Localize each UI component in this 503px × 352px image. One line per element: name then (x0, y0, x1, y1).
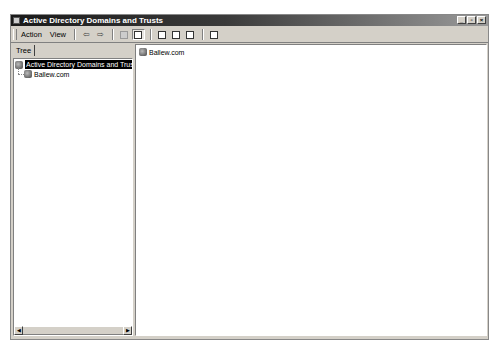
details-pane: Ballew.com (135, 44, 487, 336)
menu-action[interactable]: Action (17, 30, 46, 39)
horizontal-scrollbar[interactable]: ◀ ▶ (14, 326, 132, 335)
folder-up-icon (120, 31, 128, 39)
tree-root-label: Active Directory Domains and Trusts (25, 60, 133, 69)
up-one-level-button[interactable] (118, 29, 131, 40)
refresh-icon (172, 31, 180, 39)
export-list-button[interactable] (184, 29, 197, 40)
toolbar-separator (202, 29, 204, 40)
scroll-track[interactable] (23, 326, 123, 335)
show-hide-console-tree-button[interactable] (132, 29, 145, 40)
scroll-right-button[interactable]: ▶ (123, 326, 132, 335)
window-controls: _ ▫ × (457, 16, 486, 24)
tree-item-label: Ballew.com (34, 71, 69, 78)
domains-trusts-icon (15, 61, 23, 69)
forward-arrow-icon: ⇨ (97, 30, 104, 39)
app-icon[interactable] (13, 17, 20, 24)
console-tree-pane: Active Directory Domains and Trusts Ball… (13, 58, 133, 336)
close-button[interactable]: × (477, 16, 486, 24)
toolbar-separator (112, 29, 114, 40)
maximize-button[interactable]: ▫ (467, 16, 476, 24)
back-button[interactable]: ⇦ (80, 29, 93, 40)
properties-icon (158, 31, 166, 39)
domain-icon (24, 70, 32, 78)
export-list-icon (186, 31, 194, 39)
refresh-button[interactable] (170, 29, 183, 40)
toolbar-separator (150, 29, 152, 40)
menu-toolbar: Action View ⇦ ⇨ (11, 27, 488, 43)
console-tree-icon (134, 31, 142, 39)
help-button[interactable] (208, 29, 221, 40)
title-bar[interactable]: Active Directory Domains and Trusts _ ▫ … (11, 15, 488, 26)
toolbar-separator (74, 29, 76, 40)
forward-button[interactable]: ⇨ (94, 29, 107, 40)
tab-tree[interactable]: Tree (13, 45, 35, 56)
domain-icon (139, 48, 147, 56)
help-icon (210, 31, 218, 39)
back-arrow-icon: ⇦ (83, 30, 90, 39)
list-item-ballew-com[interactable]: Ballew.com (139, 47, 184, 57)
mmc-window: Active Directory Domains and Trusts _ ▫ … (10, 14, 489, 340)
window-title: Active Directory Domains and Trusts (23, 15, 163, 26)
minimize-button[interactable]: _ (457, 16, 466, 24)
scroll-left-button[interactable]: ◀ (14, 326, 23, 335)
tree-item-ballew-com[interactable]: Ballew.com (24, 69, 69, 79)
menu-view[interactable]: View (46, 30, 70, 39)
tree-root-node[interactable]: Active Directory Domains and Trusts (15, 60, 133, 69)
list-item-label: Ballew.com (149, 49, 184, 56)
tree-tab-bar: Tree (13, 44, 133, 57)
properties-button[interactable] (156, 29, 169, 40)
